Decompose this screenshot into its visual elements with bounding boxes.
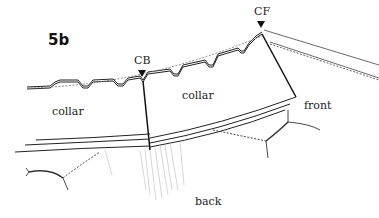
center-front-edge <box>262 34 296 97</box>
cf-marker-triangle <box>257 21 265 28</box>
drape-hatching <box>105 142 184 200</box>
cf-label: CF <box>254 6 270 17</box>
collar-right-label: collar <box>182 90 214 101</box>
cb-label: CB <box>134 55 151 66</box>
collar-left-label: collar <box>52 106 84 117</box>
front-label: front <box>304 100 331 111</box>
back-label: back <box>195 196 221 207</box>
collar-construction-diagram: 5b CB CF collar collar front back <box>0 0 379 218</box>
figure-number: 5b <box>48 31 69 49</box>
